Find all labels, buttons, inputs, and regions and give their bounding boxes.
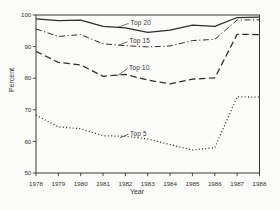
x-tick-label: 1982 xyxy=(119,180,133,187)
y-tick-label: 100 xyxy=(21,11,32,18)
series-label-top-5: Top 5 xyxy=(130,130,147,138)
x-tick-label: 1983 xyxy=(141,180,155,187)
x-tick-label: 1985 xyxy=(186,180,200,187)
series-label-top-20: Top 20 xyxy=(131,19,152,27)
x-tick-label: 1979 xyxy=(51,180,65,187)
x-tick-label: 1978 xyxy=(29,180,43,187)
line-chart: 5060708090100197819791980198119821983198… xyxy=(0,0,280,210)
y-tick-label: 70 xyxy=(24,106,31,113)
x-tick-label: 1981 xyxy=(96,180,110,187)
x-tick-label: 1980 xyxy=(74,180,88,187)
series-line-top-5 xyxy=(36,97,260,150)
y-tick-label: 80 xyxy=(24,74,31,81)
y-tick-label: 60 xyxy=(24,138,31,145)
y-tick-label: 90 xyxy=(24,43,31,50)
x-axis-title: Year xyxy=(130,188,145,195)
x-tick-label: 1988 xyxy=(253,180,267,187)
label-leader-top-15 xyxy=(119,42,128,45)
y-axis-title: Percent xyxy=(8,68,15,92)
x-tick-label: 1984 xyxy=(163,180,177,187)
x-tick-label: 1986 xyxy=(208,180,222,187)
label-leader-top-20 xyxy=(118,24,129,28)
x-tick-label: 1987 xyxy=(230,180,244,187)
chart-figure: 5060708090100197819791980198119821983198… xyxy=(0,0,280,210)
y-tick-label: 50 xyxy=(24,169,31,176)
series-label-top-15: Top 15 xyxy=(130,37,151,45)
series-label-top-10: Top 10 xyxy=(129,64,150,72)
